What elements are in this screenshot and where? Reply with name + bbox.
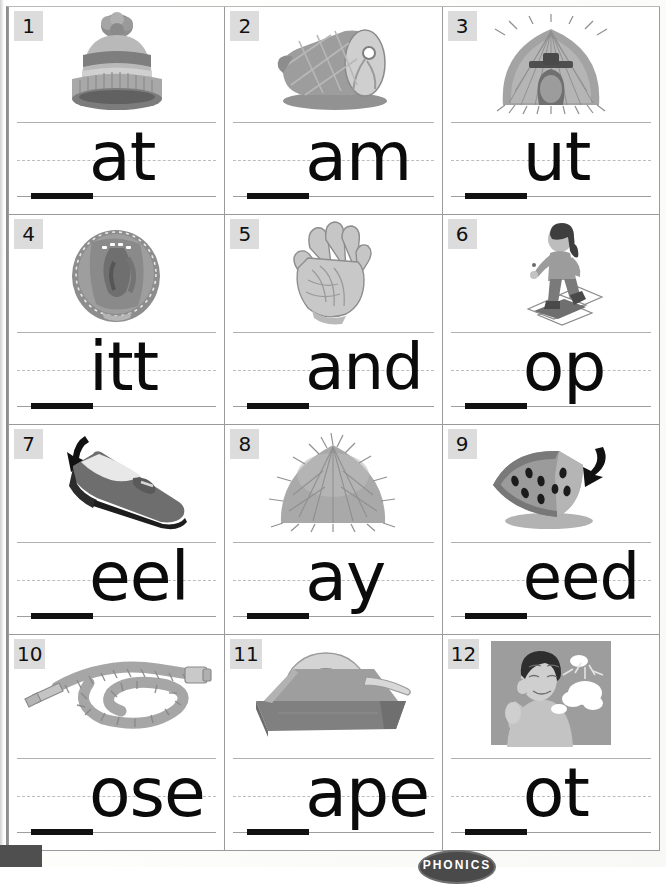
cell-number: 3 <box>448 11 477 41</box>
answer-blank[interactable] <box>31 613 93 619</box>
phonics-cell[interactable]: 10 <box>8 635 225 851</box>
handwriting-lines: am <box>233 122 433 200</box>
phonics-cell[interactable]: 12 <box>443 635 660 851</box>
phonics-cell[interactable]: 2 <box>225 7 442 215</box>
phonics-cell[interactable]: 7 eel <box>8 425 225 635</box>
handwriting-lines: ose <box>17 758 216 836</box>
handwriting-lines: ay <box>233 542 433 620</box>
answer-blank[interactable] <box>247 613 309 619</box>
phonics-cell[interactable]: 6 <box>443 215 660 425</box>
handwriting-lines: itt <box>17 332 216 410</box>
handwriting-lines: eel <box>17 542 216 620</box>
cell-number: 9 <box>448 429 477 459</box>
word-ending: at <box>89 118 155 196</box>
word-ending: ut <box>523 118 591 196</box>
handwriting-lines: op <box>451 332 651 410</box>
answer-blank[interactable] <box>465 829 527 835</box>
answer-blank[interactable] <box>247 403 309 409</box>
cell-number: 5 <box>230 219 259 249</box>
answer-blank[interactable] <box>247 829 309 835</box>
handwriting-lines: ape <box>233 758 433 836</box>
word-ending: am <box>305 118 411 196</box>
phonics-cell[interactable]: 11 <box>225 635 442 851</box>
word-ending: ay <box>305 538 385 616</box>
answer-blank[interactable] <box>465 403 527 409</box>
answer-blank[interactable] <box>465 193 527 199</box>
phonics-grid: 1 <box>6 6 660 850</box>
handwriting-lines: ot <box>451 758 651 836</box>
word-ending: eed <box>523 538 639 616</box>
answer-blank[interactable] <box>465 613 527 619</box>
answer-blank[interactable] <box>247 193 309 199</box>
answer-blank[interactable] <box>31 193 93 199</box>
cell-number: 8 <box>230 429 259 459</box>
phonics-cell[interactable]: 9 <box>443 425 660 635</box>
handwriting-lines: ut <box>451 122 651 200</box>
phonics-cell[interactable]: 8 <box>225 425 442 635</box>
cell-number: 10 <box>14 639 45 669</box>
handwriting-lines: at <box>17 122 216 200</box>
cell-number: 4 <box>14 219 43 249</box>
word-ending: eel <box>89 538 189 616</box>
page-left-edge-shadow <box>0 0 4 852</box>
cell-number: 12 <box>448 639 479 669</box>
cell-number: 2 <box>230 11 259 41</box>
word-ending: itt <box>89 328 158 406</box>
phonics-cell[interactable]: 5 <box>225 215 442 425</box>
word-ending: ot <box>523 754 589 832</box>
cell-number: 1 <box>14 11 43 41</box>
word-ending: and <box>305 328 422 406</box>
answer-blank[interactable] <box>31 829 93 835</box>
phonics-cell[interactable]: 1 <box>8 7 225 215</box>
cell-number: 6 <box>448 219 477 249</box>
page-corner-artifact <box>0 845 42 867</box>
cell-number: 7 <box>14 429 43 459</box>
word-ending: op <box>523 328 606 406</box>
word-ending: ape <box>305 754 429 832</box>
phonics-cell[interactable]: 4 <box>8 215 225 425</box>
phonics-cell[interactable]: 3 <box>443 7 660 215</box>
handwriting-lines: eed <box>451 542 651 620</box>
word-ending: ose <box>89 754 205 832</box>
handwriting-lines: and <box>233 332 433 410</box>
cell-number: 11 <box>230 639 261 669</box>
phonics-badge: PHONICS <box>418 850 496 884</box>
answer-blank[interactable] <box>31 403 93 409</box>
